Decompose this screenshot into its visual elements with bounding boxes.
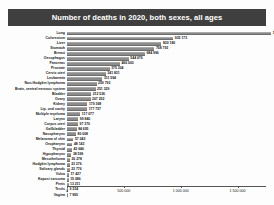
axis-tick-label: 0 <box>66 189 68 193</box>
bar <box>67 42 161 46</box>
axis-tick-label: 1 000 000 <box>173 189 189 193</box>
axis-tick-label: 1 500 000 <box>230 189 246 193</box>
bar <box>67 97 91 101</box>
bar <box>67 132 76 136</box>
bar <box>67 102 87 106</box>
bar <box>67 122 78 126</box>
chart-title-banner: Number of deaths in 2020, both sexes, al… <box>8 9 266 26</box>
bar <box>67 92 91 96</box>
bar-rows: Lung1 796 144Colorectum935 173Liver830 1… <box>0 31 274 198</box>
bar <box>67 67 110 71</box>
bar <box>67 32 271 36</box>
bar <box>67 107 87 111</box>
bar <box>67 72 106 76</box>
x-axis-ticks: 0500 0001 000 0001 500 000 <box>0 186 274 198</box>
bar <box>67 52 145 56</box>
axis-tick-label: 500 000 <box>117 189 130 193</box>
chart-canvas: Number of deaths in 2020, both sexes, al… <box>0 0 274 205</box>
bar <box>67 117 78 121</box>
bar <box>67 77 102 81</box>
bar <box>67 112 80 116</box>
bar <box>67 47 154 51</box>
page-title: Number of deaths in 2020, both sexes, al… <box>52 13 223 22</box>
bar <box>67 127 77 131</box>
bar <box>67 82 97 86</box>
bar-chart: Lung1 796 144Colorectum935 173Liver830 1… <box>0 31 274 191</box>
bar <box>67 57 129 61</box>
bar <box>67 62 120 66</box>
bar <box>67 37 173 41</box>
bar <box>67 87 96 91</box>
